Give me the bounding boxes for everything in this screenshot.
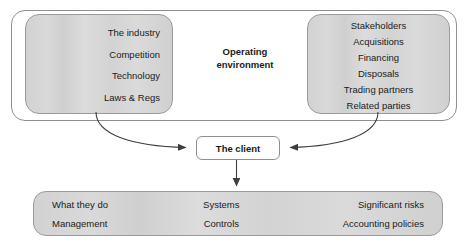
attributes-column-right: Significant risks Accounting policies bbox=[343, 195, 424, 233]
client-label: The client bbox=[216, 143, 260, 154]
list-item: Management bbox=[52, 214, 107, 233]
client-node: The client bbox=[196, 136, 280, 160]
left-box-to-client-arrow bbox=[96, 112, 186, 148]
diagram-canvas: The industry Competition Technology Laws… bbox=[0, 0, 469, 245]
right-box-to-client-arrow bbox=[290, 112, 378, 148]
client-attributes-bar: What they do Management Systems Controls… bbox=[33, 191, 443, 236]
list-item: What they do bbox=[52, 195, 108, 214]
list-item: Systems bbox=[203, 195, 239, 214]
client-attributes-columns: What they do Management Systems Controls… bbox=[34, 192, 442, 235]
attributes-column-middle: Systems Controls bbox=[108, 195, 343, 233]
list-item: Controls bbox=[204, 214, 239, 233]
attributes-column-left: What they do Management bbox=[52, 195, 108, 233]
list-item: Accounting policies bbox=[343, 214, 424, 233]
list-item: Significant risks bbox=[358, 195, 424, 214]
